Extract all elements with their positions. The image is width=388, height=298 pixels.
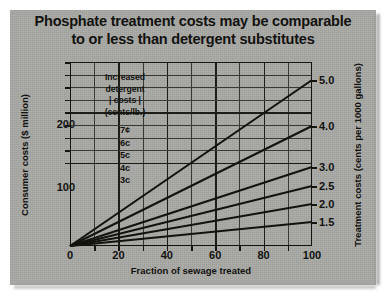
legend-item: 4c: [88, 162, 162, 175]
legend-item: 7¢: [88, 124, 162, 137]
x-axis-tick-label: 0: [67, 249, 73, 261]
y-axis-tick: [65, 100, 70, 102]
y-axis-tick: [65, 62, 70, 64]
y2-axis-tick: [312, 126, 317, 128]
legend-item: 6c: [88, 137, 162, 150]
y2-axis-tick: [312, 167, 317, 169]
y2-axis-tick-label: 5.0: [319, 74, 334, 86]
legend-item: 5c: [88, 149, 162, 162]
y-axis-tick: [65, 163, 70, 165]
legend-box: Increased detergent | costs | (cents/lb.…: [88, 72, 162, 187]
y-axis-tick: [65, 125, 70, 127]
y2-axis-tick-label: 2.0: [319, 198, 334, 210]
y2-axis-tick: [312, 204, 317, 206]
legend-item: 3c: [88, 174, 162, 187]
y2-axis-tick-label: 1.5: [319, 216, 334, 228]
y2-axis-tick: [312, 80, 317, 82]
chart-figure: Phosphate treatment costs may be compara…: [0, 0, 388, 298]
legend-title-line-3: | costs |: [88, 95, 162, 107]
x-axis-tick-label: 100: [303, 249, 321, 261]
x-axis-tick: [239, 246, 241, 251]
y2-axis-tick-label: 4.0: [319, 120, 334, 132]
x-axis-tick: [191, 246, 193, 251]
legend-title-line-4: (cents/lb.): [88, 107, 162, 119]
y-axis-tick: [65, 75, 70, 77]
panel-shadow-bottom: [14, 285, 376, 289]
y2-axis-tick: [312, 186, 317, 188]
x-axis-tick: [288, 246, 290, 251]
y2-axis-tick: [312, 222, 317, 224]
x-axis-tick: [167, 246, 169, 251]
y-axis-title: Consumer costs ($ million): [19, 94, 30, 216]
y2-axis-title: Treatment costs (cents per 1000 gallons): [352, 63, 363, 247]
x-axis-title: Fraction of sewage treated: [131, 265, 251, 276]
legend-title-line-2: detergent: [88, 84, 162, 96]
y2-axis-tick-label: 3.0: [319, 161, 334, 173]
x-axis-tick: [94, 246, 96, 251]
x-axis-tick: [215, 246, 217, 251]
legend-title-line-1: Increased: [88, 72, 162, 84]
chart-title-line-2: to or less than detergent substitutes: [18, 31, 368, 49]
y-axis-tick: [65, 112, 70, 114]
y-axis-tick: [65, 150, 70, 152]
y-axis-tick: [65, 138, 70, 140]
x-axis-tick: [264, 246, 266, 251]
y2-axis-tick-label: 2.5: [319, 180, 334, 192]
legend-items: 7¢6c5c4c3c: [88, 124, 162, 187]
x-axis-tick: [143, 246, 145, 251]
legend-title: Increased detergent | costs | (cents/lb.…: [88, 72, 162, 118]
chart-title: Phosphate treatment costs may be compara…: [18, 13, 368, 48]
x-axis-tick: [118, 246, 120, 251]
panel-shadow-right: [376, 14, 380, 285]
chart-title-line-1: Phosphate treatment costs may be compara…: [35, 13, 352, 29]
y-axis-tick: [65, 87, 70, 89]
